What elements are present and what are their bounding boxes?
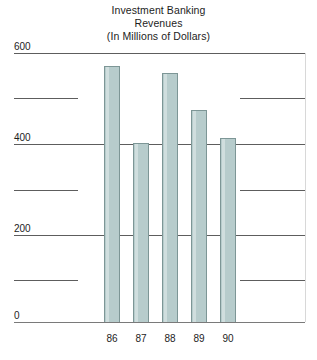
gridline-400 <box>14 144 305 145</box>
y-axis-tick-600: 600 <box>14 41 31 52</box>
bar-87 <box>133 143 149 322</box>
bar-86-highlight <box>106 67 109 322</box>
bar-89-highlight <box>193 111 196 322</box>
bar-88 <box>162 73 178 322</box>
gridline-minor-100-right <box>240 280 305 281</box>
bar-90 <box>220 138 236 322</box>
x-axis-tick-87: 87 <box>129 333 153 344</box>
gridline-minor-500-right <box>240 98 305 99</box>
x-axis-tick-88: 88 <box>158 333 182 344</box>
bar-87-highlight <box>135 144 138 322</box>
gridline-minor-100-left <box>14 280 78 281</box>
y-axis-tick-400: 400 <box>14 132 31 143</box>
x-axis-tick-86: 86 <box>100 333 124 344</box>
bar-88-highlight <box>164 74 167 322</box>
plot-right-border <box>305 53 306 322</box>
gridline-600 <box>14 53 305 54</box>
bar-89 <box>191 110 207 322</box>
gridline-minor-300-right <box>240 190 305 191</box>
x-axis-tick-90: 90 <box>216 333 240 344</box>
y-axis-tick-200: 200 <box>14 223 31 234</box>
x-axis-tick-89: 89 <box>187 333 211 344</box>
gridline-minor-300-left <box>14 190 78 191</box>
plot-area: 600 400 200 0 86 87 88 89 90 <box>0 0 317 360</box>
bar-90-highlight <box>222 139 225 322</box>
gridline-200 <box>14 235 305 236</box>
gridline-0-baseline <box>14 322 305 323</box>
bar-86 <box>104 66 120 322</box>
gridline-minor-500-left <box>14 98 78 99</box>
y-axis-tick-0: 0 <box>14 310 20 321</box>
chart-figure: Investment Banking Revenues (In Millions… <box>0 0 317 360</box>
